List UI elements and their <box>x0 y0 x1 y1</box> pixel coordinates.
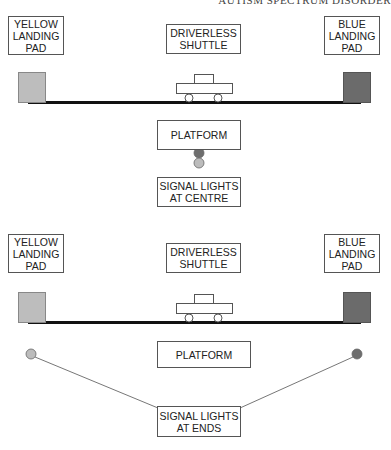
diagram-canvas: AUTISM SPECTRUM DISORDER YELLOW LANDING … <box>0 0 391 450</box>
blue-landing-pad-label: BLUE LANDING PAD <box>324 16 380 55</box>
track-line <box>28 101 361 104</box>
signal-lights-centre-label: SIGNAL LIGHTS AT CENTRE <box>157 177 241 207</box>
track-line <box>28 321 361 324</box>
shuttle-cabin <box>195 75 214 84</box>
driverless-shuttle-label: DRIVERLESS SHUTTLE <box>166 24 241 54</box>
platform-label: PLATFORM <box>157 341 251 368</box>
platform-label: PLATFORM <box>157 120 241 150</box>
signal-light-light <box>194 158 204 168</box>
blue-landing-pad-label: BLUE LANDING PAD <box>324 234 380 273</box>
yellow-landing-pad <box>19 293 46 323</box>
shuttle-wheel <box>185 314 193 322</box>
blue-landing-pad <box>344 293 371 323</box>
yellow-landing-pad <box>19 73 46 103</box>
yellow-landing-pad-label: YELLOW LANDING PAD <box>8 234 64 273</box>
connector-line <box>35 357 158 408</box>
shuttle-wheel <box>185 94 193 102</box>
yellow-landing-pad-label: YELLOW LANDING PAD <box>8 16 64 55</box>
connector-line <box>240 357 353 408</box>
shuttle-body <box>177 304 233 314</box>
signal-lights-ends-label: SIGNAL LIGHTS AT ENDS <box>157 406 241 437</box>
blue-landing-pad <box>344 73 371 103</box>
shuttle-wheel <box>214 314 222 322</box>
shuttle-cabin <box>195 295 214 304</box>
diagram-graphics <box>0 0 391 450</box>
signal-light-light <box>26 349 36 359</box>
shuttle-body <box>177 84 233 94</box>
signal-light-dark <box>352 349 362 359</box>
shuttle-wheel <box>214 94 222 102</box>
driverless-shuttle-label: DRIVERLESS SHUTTLE <box>166 243 241 273</box>
